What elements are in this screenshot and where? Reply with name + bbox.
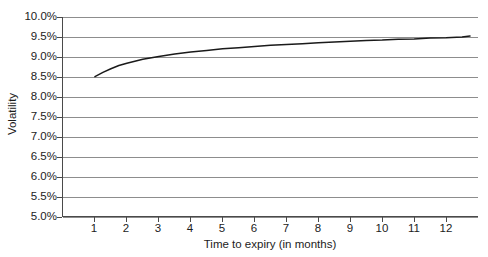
- x-axis-tick-label: 3: [144, 223, 172, 235]
- x-axis-tick-label: 11: [400, 223, 428, 235]
- volatility-curve-line: [95, 36, 470, 77]
- x-axis-tick-label: 5: [208, 223, 236, 235]
- x-axis-tick-label: 8: [304, 223, 332, 235]
- x-axis-tick-labels: 123456789101112: [62, 223, 478, 239]
- volatility-chart-figure: Volatility 10.0%9.5%9.0%8.5%8.0%7.5%7.0%…: [0, 0, 488, 257]
- x-axis-tick-label: 6: [240, 223, 268, 235]
- x-axis-tick-label: 2: [112, 223, 140, 235]
- x-axis-tick-label: 4: [176, 223, 204, 235]
- volatility-curve-svg: [63, 17, 478, 216]
- x-axis-tick-label: 1: [80, 223, 108, 235]
- x-axis-tick-label: 12: [432, 223, 460, 235]
- y-axis-tick-marks: [0, 17, 62, 217]
- x-axis-tick-label: 7: [272, 223, 300, 235]
- x-axis-title: Time to expiry (in months): [62, 238, 478, 250]
- x-axis-tick-label: 9: [336, 223, 364, 235]
- plot-area: [62, 17, 478, 217]
- x-axis-tick-label: 10: [368, 223, 396, 235]
